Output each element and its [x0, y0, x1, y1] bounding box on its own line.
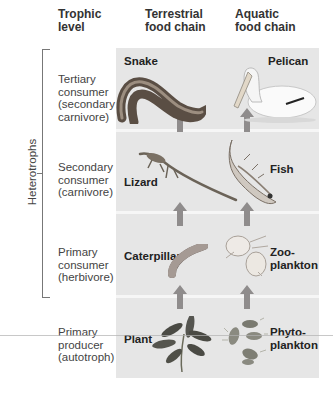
zooplankton-illustration — [222, 232, 272, 280]
plant-illustration — [150, 316, 214, 374]
header-trophic-level: Trophic level — [58, 8, 101, 34]
level-line: Primary — [58, 246, 114, 259]
label-zooplankton: Zoo- plankton — [270, 246, 318, 271]
band-divider — [116, 129, 319, 132]
level-line: (secondary — [58, 98, 115, 111]
bracket-top-tick — [42, 49, 50, 50]
level-tertiary-consumer: Tertiary consumer (secondary carnivore) — [58, 73, 115, 123]
level-line: Primary — [58, 326, 114, 339]
lizard-illustration — [138, 148, 238, 204]
arrow-up-icon — [173, 202, 187, 226]
fish-illustration — [224, 136, 284, 210]
label-phytoplankton: Phyto- plankton — [270, 326, 318, 351]
label-line: plankton — [270, 339, 318, 352]
label-line: Zoo- — [270, 246, 318, 259]
phytoplankton-illustration — [220, 316, 270, 368]
level-line: producer — [58, 339, 114, 352]
level-line: consumer — [58, 174, 113, 187]
label-line: Phyto- — [270, 326, 318, 339]
level-line: Tertiary — [58, 73, 115, 86]
level-line: (carnivore) — [58, 186, 113, 199]
level-secondary-consumer: Secondary consumer (carnivore) — [58, 161, 113, 199]
band-divider — [116, 211, 319, 214]
snake-illustration — [116, 68, 206, 124]
heterotrophs-bracket — [42, 49, 43, 297]
level-line: consumer — [58, 86, 115, 99]
pelican-illustration — [220, 62, 320, 124]
level-line: consumer — [58, 259, 114, 272]
label-snake: Snake — [124, 55, 158, 68]
arrow-up-icon — [240, 285, 254, 309]
level-primary-producer: Primary producer (autotroph) — [58, 326, 114, 364]
header-aquatic: Aquatic food chain — [235, 8, 296, 34]
caterpillar-illustration — [168, 244, 208, 278]
header-terrestrial: Terrestrial food chain — [145, 8, 206, 34]
level-line: Secondary — [58, 161, 113, 174]
header-line: food chain — [235, 21, 296, 34]
label-line: plankton — [270, 259, 318, 272]
level-line: (autotroph) — [58, 351, 114, 364]
level-line: (herbivore) — [58, 271, 114, 284]
arrow-up-icon — [173, 285, 187, 309]
heterotrophs-label: Heterotrophs — [26, 122, 38, 222]
band-divider — [116, 295, 319, 298]
horizontal-rule — [0, 335, 333, 336]
bracket-bottom-tick — [42, 297, 50, 298]
level-primary-consumer: Primary consumer (herbivore) — [58, 246, 114, 284]
header-line: food chain — [145, 21, 206, 34]
header-line: level — [58, 21, 101, 34]
level-line: carnivore) — [58, 111, 115, 124]
